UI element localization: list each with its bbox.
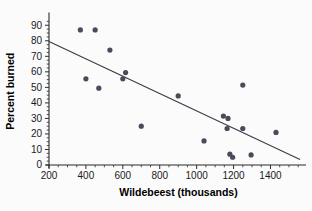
chart-canvas: 2004006008001000120014000102030405060708… — [0, 0, 312, 211]
data-point — [120, 76, 125, 81]
x-tick-label: 200 — [41, 170, 58, 181]
y-tick-label: 90 — [31, 20, 43, 31]
data-point — [93, 27, 98, 32]
x-tick-label: 400 — [78, 170, 95, 181]
data-point — [78, 27, 83, 32]
data-point — [240, 126, 245, 131]
data-point — [230, 155, 235, 160]
x-tick-label: 1400 — [259, 170, 282, 181]
x-tick-label: 800 — [151, 170, 168, 181]
y-tick-label: 50 — [31, 82, 43, 93]
y-axis-title: Percent burned — [4, 53, 16, 130]
y-tick-label: 20 — [31, 128, 43, 139]
data-point — [224, 126, 229, 131]
data-point — [139, 124, 144, 129]
y-tick-label: 30 — [31, 113, 43, 124]
data-point — [201, 138, 206, 143]
x-tick-label: 1200 — [222, 170, 245, 181]
data-point — [225, 116, 230, 121]
data-point — [273, 130, 278, 135]
data-point — [176, 93, 181, 98]
data-point — [123, 70, 128, 75]
data-point — [96, 86, 101, 91]
y-tick-label: 70 — [31, 51, 43, 62]
y-tick-label: 80 — [31, 35, 43, 46]
y-tick-label: 60 — [31, 66, 43, 77]
data-point — [83, 76, 88, 81]
x-tick-label: 1000 — [186, 170, 209, 181]
x-tick-label: 600 — [114, 170, 131, 181]
scatter-plot-figure: 2004006008001000120014000102030405060708… — [0, 0, 312, 211]
data-point — [221, 113, 226, 118]
x-axis-title: Wildebeest (thousands) — [119, 186, 237, 198]
data-point — [248, 152, 253, 157]
y-tick-label: 0 — [36, 159, 42, 170]
data-point — [240, 82, 245, 87]
y-tick-label: 40 — [31, 97, 43, 108]
y-tick-label: 10 — [31, 144, 43, 155]
data-point — [107, 48, 112, 53]
